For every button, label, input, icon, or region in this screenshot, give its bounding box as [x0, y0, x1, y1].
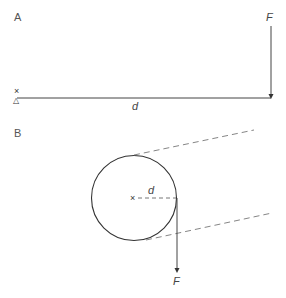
- force-label-a: F: [266, 12, 273, 23]
- force-arrow-b-head: [175, 268, 180, 273]
- diagram-canvas: [0, 0, 286, 298]
- distance-label-a: d: [132, 101, 138, 112]
- support-triangle-icon: △: [13, 95, 19, 106]
- panel-a-label: A: [14, 12, 21, 23]
- panel-b-drawing: [92, 130, 273, 273]
- distance-label-b: d: [148, 185, 154, 196]
- panel-a-drawing: [17, 26, 274, 99]
- force-label-b: F: [173, 276, 180, 287]
- tangent-dashed-top: [134, 130, 254, 155]
- center-mark-b: ×: [130, 193, 135, 204]
- panel-b-label: B: [14, 128, 21, 139]
